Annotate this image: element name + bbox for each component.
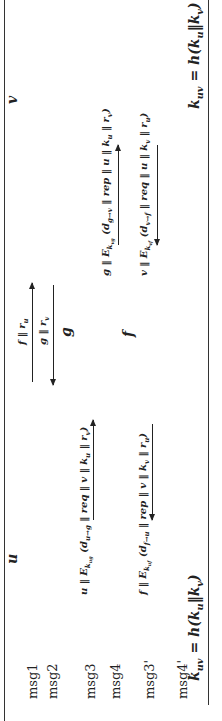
msg2-payload: g ‖ rv [37, 317, 51, 345]
msg3-label: msg3 [83, 663, 98, 699]
msg2-arrow [53, 285, 54, 385]
msg3p-arrow [157, 145, 158, 245]
msg2-label: msg2 [45, 663, 60, 699]
bottom-rule [208, 0, 209, 705]
msg3p-label: msg3' [142, 660, 157, 699]
msg1-label: msg1 [25, 663, 40, 699]
relay-g-label: g [58, 327, 74, 337]
party-v-label: v [4, 96, 20, 104]
msg1-payload: f ‖ ru [16, 318, 30, 345]
session-key-left: kuv = h(ku‖kv) [186, 574, 205, 681]
msg4p-arrow [152, 424, 153, 520]
session-key-right: kuv = h(ku‖kv) [186, 2, 205, 109]
protocol-diagram: u v msg1 msg2 msg3 msg4 msg3' msg4' f ‖ … [0, 0, 222, 721]
msg3p-payload: v ‖ Ekvf (dv→f ‖ req ‖ u ‖ kv ‖ ru) [138, 113, 153, 276]
party-u-label: u [4, 554, 20, 564]
relay-f-label: f [120, 331, 136, 337]
msg3-payload: u ‖ Ekug (du→g ‖ req ‖ v ‖ ku ‖ rv) [78, 427, 93, 595]
top-rule [4, 0, 5, 721]
msg4-arrow [118, 145, 119, 245]
msg1-arrow [32, 283, 33, 382]
msg4-payload: g ‖ Ekvg (dg→v ‖ rep ‖ u ‖ ku ‖ rv) [100, 108, 115, 276]
msg4-label: msg4 [108, 663, 123, 699]
msg3-arrow [93, 420, 94, 520]
